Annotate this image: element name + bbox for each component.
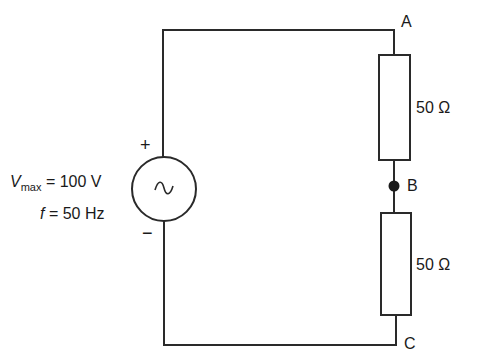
bottom-wire: [164, 221, 396, 345]
node-c-label: C: [404, 336, 416, 352]
vmax-label: Vmax = 100 V: [10, 174, 102, 190]
resistor-r2-label: 50 Ω: [416, 257, 450, 273]
node-b-label: B: [407, 178, 418, 194]
vmax-symbol: V: [10, 173, 21, 190]
top-wire: [163, 30, 394, 157]
minus-sign: −: [142, 224, 153, 242]
node-b-dot: [389, 181, 400, 192]
node-a-label: A: [401, 14, 412, 30]
resistor-r2: [381, 213, 411, 315]
resistor-r1: [379, 55, 410, 160]
vmax-subscript: max: [21, 181, 42, 193]
plus-sign: +: [140, 136, 151, 154]
sine-icon: [155, 182, 173, 194]
resistor-r1-label: 50 Ω: [416, 100, 450, 116]
vmax-value: = 100 V: [46, 173, 102, 190]
freq-symbol: f: [40, 205, 44, 222]
freq-value: = 50 Hz: [49, 205, 105, 222]
frequency-label: f = 50 Hz: [40, 206, 105, 222]
